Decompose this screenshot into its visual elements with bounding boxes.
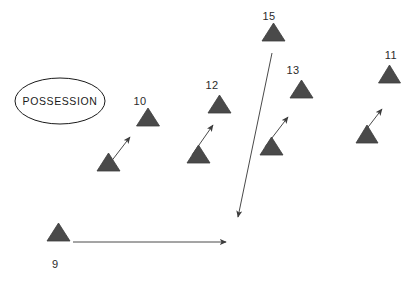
movement-line-11 (362, 109, 382, 135)
player-group-11: 11 (356, 49, 401, 143)
player-label-15: 15 (262, 10, 275, 22)
player-group-12: 12 (187, 79, 231, 163)
player-marker-10 (97, 153, 120, 171)
player-marker-13 (260, 137, 283, 155)
player-marker-9 (47, 223, 70, 241)
player-label-10: 10 (133, 95, 146, 107)
player-marker-12 (187, 145, 210, 163)
player-label-11: 11 (385, 49, 397, 61)
player-label-12: 12 (205, 79, 218, 91)
player-target-marker-11 (379, 65, 401, 83)
player-group-9: 9 (47, 223, 226, 270)
movement-line-15 (238, 53, 272, 217)
player-label-13: 13 (286, 64, 299, 76)
player-group-10: 10 (97, 95, 160, 171)
diagram-canvas: POSSESSION 9 10 12 13 (0, 0, 418, 286)
player-target-marker-13 (290, 80, 313, 98)
possession-ellipse-group: POSSESSION (15, 78, 105, 124)
movement-line-10 (110, 137, 130, 163)
player-target-marker-12 (208, 95, 231, 113)
player-target-marker-10 (137, 108, 160, 126)
player-label-9: 9 (52, 258, 59, 270)
player-marker-15 (262, 23, 285, 41)
player-group-15: 15 (238, 10, 285, 217)
movement-line-13 (265, 117, 288, 147)
player-group-13: 13 (260, 64, 313, 155)
possession-drill-diagram: POSSESSION 9 10 12 13 (0, 0, 418, 286)
possession-label: POSSESSION (23, 95, 98, 107)
movement-line-12 (192, 125, 213, 155)
